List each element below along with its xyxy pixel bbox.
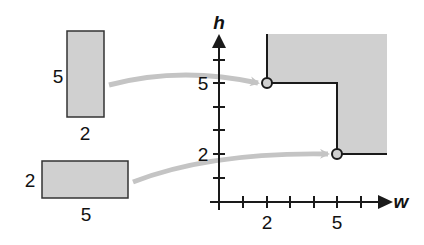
arrow-wide-to-point — [133, 154, 328, 182]
tall-rect-width-label: 2 — [80, 123, 91, 144]
x-tick-label-5: 5 — [332, 212, 343, 233]
y-axis-arrowhead-icon — [212, 34, 226, 48]
tall-rect-height-label: 5 — [53, 66, 64, 87]
x-tick-label-2: 2 — [262, 212, 273, 233]
point-5-2 — [332, 149, 342, 159]
diagram: 5 2 2 5 w h 2 5 5 2 — [0, 0, 424, 245]
point-2-5 — [262, 78, 272, 88]
y-tick-label-5: 5 — [198, 73, 209, 94]
y-tick-label-2: 2 — [198, 144, 209, 165]
arrow-tall-to-point — [109, 75, 258, 85]
shaded-region — [267, 34, 387, 154]
wide-rect-width-label: 5 — [81, 204, 92, 225]
y-axis-label: h — [213, 12, 225, 33]
x-axis-arrowhead-icon — [378, 195, 393, 209]
wide-rectangle — [42, 161, 128, 198]
wide-rect-height-label: 2 — [25, 170, 36, 191]
tall-rectangle — [67, 31, 104, 117]
x-axis-label: w — [394, 191, 410, 212]
